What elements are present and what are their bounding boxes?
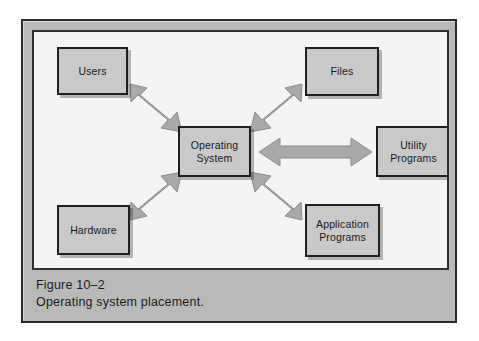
arrow-os-to-users bbox=[130, 84, 182, 132]
diagram-node-users-label: Users bbox=[78, 65, 106, 78]
diagram-node-utility-programs: Utility Programs bbox=[376, 126, 449, 177]
diagram-node-application-programs: Application Programs bbox=[305, 204, 380, 257]
arrow-os-to-hardware bbox=[130, 172, 182, 220]
diagram-node-files: Files bbox=[305, 47, 379, 96]
figure-caption-text: Operating system placement. bbox=[36, 294, 436, 311]
figure-caption-number: Figure 10–2 bbox=[36, 277, 436, 294]
diagram-node-files-label: Files bbox=[331, 65, 354, 78]
diagram-node-hardware: Hardware bbox=[57, 205, 130, 255]
arrow-os-to-files bbox=[250, 84, 302, 132]
diagram-node-utility-programs-label: Utility Programs bbox=[390, 139, 437, 164]
diagram-node-users: Users bbox=[57, 47, 128, 95]
diagram-node-hardware-label: Hardware bbox=[70, 224, 117, 237]
diagram-node-operating-system: Operating System bbox=[178, 126, 251, 177]
diagram-node-application-programs-label: Application Programs bbox=[316, 218, 369, 243]
arrow-os-to-application-programs bbox=[250, 172, 302, 220]
arrow-os-to-utility-programs bbox=[259, 138, 372, 166]
diagram-node-operating-system-label: Operating System bbox=[191, 139, 238, 164]
figure-frame: Users Files Operating System Utility Pro… bbox=[21, 19, 457, 323]
figure-caption: Figure 10–2 Operating system placement. bbox=[36, 277, 436, 310]
diagram-panel: Users Files Operating System Utility Pro… bbox=[32, 30, 449, 270]
